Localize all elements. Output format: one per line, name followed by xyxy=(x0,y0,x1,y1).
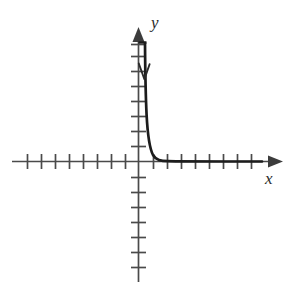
x-axis-label: x xyxy=(264,169,273,188)
exponential-graph-figure: y x xyxy=(0,0,289,290)
exponential-decay-curve xyxy=(139,43,263,162)
y-axis-label: y xyxy=(149,13,159,32)
y-axis-arrowhead xyxy=(133,27,145,42)
curve-path xyxy=(145,43,262,162)
x-axis-arrowhead xyxy=(268,156,283,168)
coordinate-plane-svg: y x xyxy=(0,0,289,290)
